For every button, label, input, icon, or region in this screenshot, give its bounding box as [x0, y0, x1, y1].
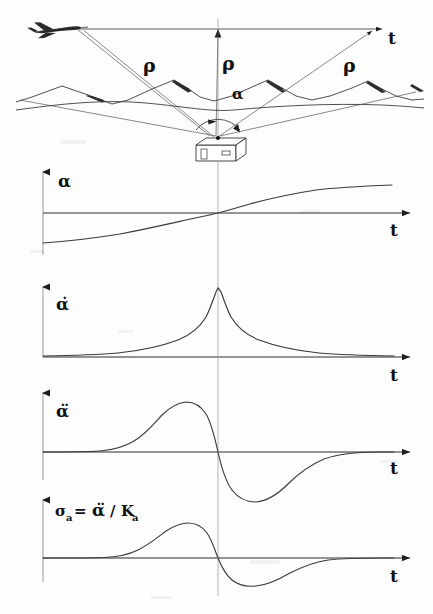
plot-alpha-xlabel: t [390, 220, 398, 240]
aircraft-silhouette [27, 22, 88, 38]
mountain-terrain-profile [16, 80, 424, 104]
scene-time-axis-label: t [388, 28, 396, 48]
range-ray-incoming-b [84, 31, 214, 138]
range-label-center: ρ [222, 52, 235, 74]
figure-canvas: t ρ ρ ρ α α t α̇ t [0, 0, 433, 614]
plot-alpha-ddot-xlabel: t [390, 458, 398, 478]
plot-alpha: α t [43, 160, 410, 262]
gain-subscript: a [132, 512, 139, 523]
scan-speckle [30, 140, 398, 599]
plot-alpha-dot-ylabel: α̇ [56, 294, 69, 314]
sigma-symbol: σ [55, 502, 66, 520]
plot-alpha-ddot: α̈ t [43, 378, 410, 502]
plot-sigma-a: σ a = α̈ / K a t [43, 495, 410, 596]
plot-alpha-ddot-ylabel: α̈ [56, 401, 69, 421]
ground-baseline [16, 102, 424, 111]
plot-sigma-a-ylabel: σ a = α̈ / K a [55, 500, 139, 523]
mountain-peak-shading [86, 80, 424, 103]
plot-alpha-ylabel: α [58, 171, 71, 191]
equals-symbol: = [74, 502, 87, 520]
overflight-scene: t ρ ρ ρ α [16, 18, 424, 161]
scene-angle-label: α [232, 85, 244, 103]
plot-sigma-a-xlabel: t [390, 566, 398, 586]
range-ray-outgoing [218, 31, 372, 137]
range-label-left: ρ [143, 54, 156, 76]
plot-alpha-curve [43, 185, 392, 243]
plot-alpha-dot: α̇ t [43, 262, 410, 385]
plot-alpha-dot-curve [43, 288, 394, 356]
divide-symbol: / [110, 502, 116, 520]
plot-alpha-dot-xlabel: t [390, 365, 398, 385]
range-ray-incoming-a [78, 30, 210, 136]
ground-radar-unit [196, 136, 246, 161]
range-label-right: ρ [343, 54, 356, 76]
sweep-arrow-right-icon [233, 124, 240, 133]
alpha-ddot-symbol: α̈ [92, 500, 105, 520]
plot-sigma-a-curve [43, 523, 394, 586]
sigma-subscript: a [66, 512, 73, 523]
